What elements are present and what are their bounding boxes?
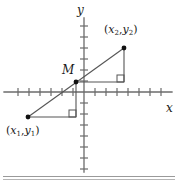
midpoint-formula-figure: y x M (x1,y1) (x2,y2) [0, 0, 181, 186]
plotted-point-p1 [26, 115, 31, 120]
y-axis-label: y [77, 4, 84, 16]
horizontal-divider-upper [3, 176, 175, 177]
point-label-x1-y1: (x1,y1) [6, 125, 39, 138]
lower-right-angle [69, 110, 76, 117]
horizontal-divider-lower [3, 179, 175, 180]
upper-right-angle [117, 75, 124, 82]
plotted-point-m [74, 80, 79, 85]
plotted-point-p2 [122, 46, 127, 51]
coordinate-plane-canvas [0, 0, 181, 186]
midpoint-label-M: M [62, 64, 74, 76]
point-label-x2-y2: (x2,y2) [104, 24, 137, 37]
axes-group [4, 18, 172, 172]
x-axis-label: x [166, 102, 173, 114]
